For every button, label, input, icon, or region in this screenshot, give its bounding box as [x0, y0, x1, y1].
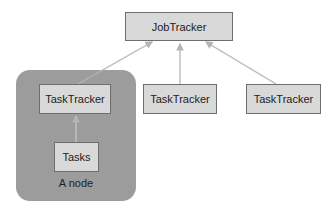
task-tracker-label-3: TaskTracker [254, 93, 314, 105]
task-tracker-box-3: TaskTracker [246, 84, 321, 114]
task-tracker-label-2: TaskTracker [150, 93, 210, 105]
task-tracker-box-2: TaskTracker [143, 84, 217, 114]
tasks-label: Tasks [62, 151, 90, 163]
edge-node-tasktracker-to-jobtracker [78, 42, 152, 84]
node-task-tracker-label: TaskTracker [45, 93, 105, 105]
edge-tasktracker3-to-jobtracker [206, 42, 276, 84]
tasks-box: Tasks [54, 142, 99, 172]
job-tracker-box: JobTracker [125, 12, 233, 41]
node-task-tracker-box: TaskTracker [39, 84, 111, 114]
node-label: A node [16, 177, 136, 189]
job-tracker-label: JobTracker [152, 21, 207, 33]
